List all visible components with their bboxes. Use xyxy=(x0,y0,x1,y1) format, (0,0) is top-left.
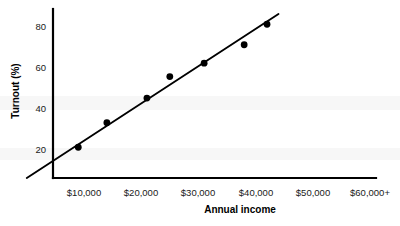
y-tick-label-60: 60 xyxy=(35,62,46,73)
data-point xyxy=(144,95,151,102)
x-tick-label-30000: $30,000 xyxy=(181,187,215,198)
y-tick-label-40: 40 xyxy=(35,103,46,114)
data-point xyxy=(103,119,110,126)
x-axis-title: Annual income xyxy=(204,204,276,215)
y-axis-title: Turnout (%) xyxy=(10,63,21,118)
x-tick-label-20000: $20,000 xyxy=(124,187,158,198)
data-point xyxy=(264,21,271,28)
data-point xyxy=(241,41,248,48)
y-tick-label-20: 20 xyxy=(35,144,46,155)
x-tick-label-10000: $10,000 xyxy=(67,187,101,198)
data-point xyxy=(201,60,208,67)
background-band-lower xyxy=(0,148,400,160)
x-tick-label-50000: $50,000 xyxy=(296,187,330,198)
x-tick-label-60000-plus: $60,000+ xyxy=(350,187,390,198)
data-point xyxy=(166,73,173,80)
scatter-plot: 80 60 40 20 $10,000 $20,000 $30,000 $40,… xyxy=(0,0,400,226)
data-point-group xyxy=(75,21,271,151)
data-point xyxy=(75,144,82,151)
x-tick-label-40000: $40,000 xyxy=(239,187,273,198)
y-tick-label-80: 80 xyxy=(35,21,46,32)
background-band-upper xyxy=(0,96,400,110)
chart-container: 80 60 40 20 $10,000 $20,000 $30,000 $40,… xyxy=(0,0,400,226)
